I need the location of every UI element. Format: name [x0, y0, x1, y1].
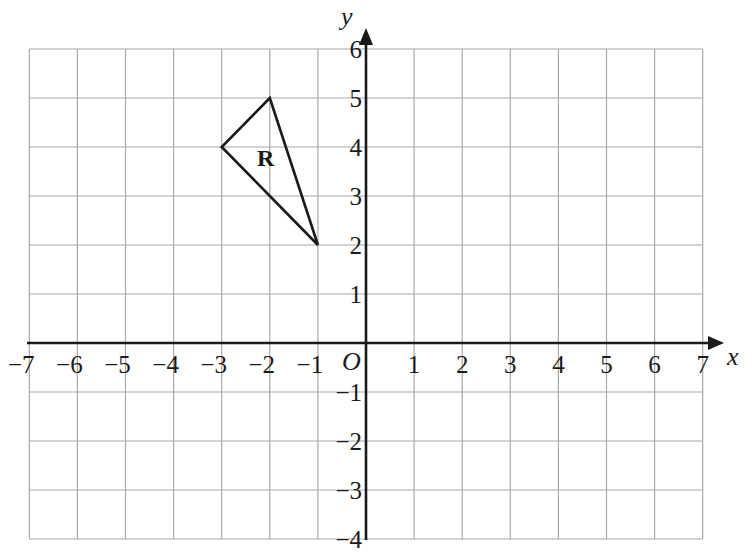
origin-label: O [342, 347, 361, 376]
x-tick-label: −5 [104, 351, 131, 378]
x-tick-label: 4 [552, 351, 565, 378]
y-tick-label: 3 [350, 183, 363, 210]
x-tick-label: −7 [8, 351, 35, 378]
x-tick-label: −3 [200, 351, 227, 378]
x-tick-label: −2 [248, 351, 275, 378]
y-tick-label: −3 [335, 477, 362, 504]
y-tick-label: −4 [335, 526, 362, 553]
x-tick-label: 5 [600, 351, 613, 378]
x-tick-label: 6 [648, 351, 661, 378]
coordinate-grid-figure: x y O −7−6−5−4−3−2−11234567 654321−1−2−3… [0, 0, 754, 556]
y-tick-label: 1 [350, 281, 363, 308]
x-tick-label: −4 [152, 351, 179, 378]
x-axis-label: x [726, 342, 739, 371]
x-tick-label: −1 [297, 351, 324, 378]
y-tick-label: 5 [350, 85, 363, 112]
y-tick-label: 6 [350, 36, 363, 63]
y-axis-label: y [338, 2, 353, 31]
y-tick-label: 2 [350, 232, 363, 259]
y-tick-label: −2 [335, 428, 362, 455]
x-tick-label: 2 [456, 351, 469, 378]
x-tick-label: 3 [504, 351, 517, 378]
x-tick-label: 7 [696, 351, 709, 378]
x-tick-label: −6 [56, 351, 83, 378]
y-tick-label: −1 [335, 379, 362, 406]
y-tick-label: 4 [350, 134, 363, 161]
triangle-r-label: R [257, 145, 275, 171]
x-tick-label: 1 [408, 351, 421, 378]
x-axis-arrow-icon [708, 336, 724, 350]
